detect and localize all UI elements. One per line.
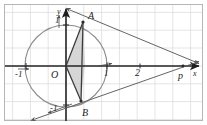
label-point-B: B [82, 107, 88, 118]
point-A-marker [81, 20, 84, 23]
label-axis-x: x [192, 69, 197, 78]
label-point-P: p [177, 70, 183, 81]
label-point-O: O [51, 69, 58, 80]
tick-label-y-minus-1: -1 [50, 103, 58, 113]
geometry-figure-container: A B O p x y -1 1 2 1 -1 [0, 0, 207, 125]
tick-label-x-1: 1 [104, 68, 109, 78]
tick-label-x-minus-1: -1 [15, 69, 23, 79]
tick-label-x-2: 2 [135, 67, 140, 78]
point-P-marker [182, 65, 185, 68]
tick-label-y-1: 1 [55, 15, 60, 25]
figure-background [0, 0, 207, 125]
label-point-A: A [87, 10, 95, 21]
figure-canvas: A B O p x y -1 1 2 1 -1 [0, 0, 207, 125]
point-B-marker [79, 99, 82, 102]
